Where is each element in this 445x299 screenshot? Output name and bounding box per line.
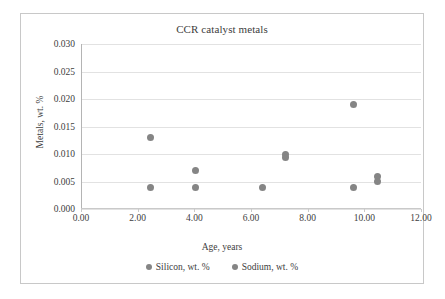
data-point — [192, 167, 199, 174]
x-tick-mark — [138, 209, 139, 212]
gridline-horizontal — [81, 127, 421, 128]
legend-item[interactable]: Sodium, wt. % — [232, 262, 298, 272]
x-axis-title: Age, years — [21, 242, 423, 252]
data-point — [147, 184, 154, 191]
y-axis-title: Metals, wt. % — [35, 77, 45, 167]
x-tick-mark — [364, 209, 365, 212]
data-point — [147, 134, 154, 141]
data-point — [374, 178, 381, 185]
data-point — [350, 101, 357, 108]
x-tick-label: 2.00 — [129, 213, 146, 223]
chart-legend: Silicon, wt. %Sodium, wt. % — [21, 262, 423, 272]
x-tick-mark — [81, 209, 82, 212]
gridline-horizontal — [81, 72, 421, 73]
y-tick-label: 0.010 — [54, 149, 75, 159]
y-tick-label: 0.025 — [54, 67, 75, 77]
y-tick-label: 0.020 — [54, 94, 75, 104]
x-tick-mark — [251, 209, 252, 212]
y-tick-label: 0.030 — [54, 39, 75, 49]
gridline-horizontal — [81, 99, 421, 100]
chart-title: CCR catalyst metals — [21, 23, 423, 35]
x-tick-label: 4.00 — [186, 213, 203, 223]
x-tick-label: 0.00 — [73, 213, 90, 223]
gridline-horizontal — [81, 182, 421, 183]
y-axis-line — [81, 44, 82, 209]
legend-label: Sodium, wt. % — [242, 262, 298, 272]
gridline-horizontal — [81, 44, 421, 45]
legend-marker-icon — [146, 264, 152, 270]
y-tick-label: 0.005 — [54, 177, 75, 187]
plot-area: 0.0000.0050.0100.0150.0200.0250.030 0.00… — [81, 44, 421, 209]
x-tick-label: 8.00 — [299, 213, 316, 223]
x-tick-mark — [308, 209, 309, 212]
data-point — [282, 154, 289, 161]
gridline-horizontal — [81, 154, 421, 155]
data-point — [192, 184, 199, 191]
x-tick-label: 10.00 — [354, 213, 375, 223]
data-point — [350, 184, 357, 191]
legend-marker-icon — [232, 264, 238, 270]
chart-container: CCR catalyst metals Metals, wt. % Age, y… — [20, 13, 424, 284]
x-tick-mark — [421, 209, 422, 212]
x-tick-label: 6.00 — [243, 213, 260, 223]
x-tick-mark — [194, 209, 195, 212]
legend-label: Silicon, wt. % — [156, 262, 210, 272]
legend-item[interactable]: Silicon, wt. % — [146, 262, 210, 272]
y-tick-label: 0.015 — [54, 122, 75, 132]
data-point — [259, 184, 266, 191]
x-tick-label: 12.00 — [410, 213, 431, 223]
